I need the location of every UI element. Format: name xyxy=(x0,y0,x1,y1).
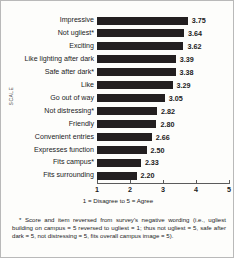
bar xyxy=(97,55,176,63)
bar-chart-plot: SCALE Impressive3.75Not ugliest*3.64Exci… xyxy=(1,1,234,197)
category-label: Like lighting after dark xyxy=(15,53,94,66)
category-label: Fits surrounding xyxy=(15,169,94,182)
bar xyxy=(97,68,176,76)
bar xyxy=(97,29,184,37)
category-label: Expresses function xyxy=(15,144,94,157)
bar-row: Expresses function2.50 xyxy=(1,144,234,157)
category-label: Convenient entries xyxy=(15,131,94,144)
bar-row: Fits surrounding2.20 xyxy=(1,169,234,182)
bar xyxy=(97,42,183,50)
bar-value-label: 2.20 xyxy=(141,169,155,182)
x-axis-caption: 1 = Disagree to 5 = Agree xyxy=(1,197,234,204)
x-axis-tick-label: 3 xyxy=(153,185,173,194)
bar xyxy=(97,17,188,25)
bar-row: Fits campus*2.33 xyxy=(1,156,234,169)
x-axis-tick-label: 1 xyxy=(87,185,107,194)
bar-row: Go out of way3.05 xyxy=(1,92,234,105)
bar-value-label: 3.75 xyxy=(192,14,206,27)
bar xyxy=(97,120,156,128)
bar xyxy=(97,94,165,102)
bar-row: Convenient entries2.66 xyxy=(1,131,234,144)
category-label: Safe after dark* xyxy=(15,66,94,79)
bar-row: Impressive3.75 xyxy=(1,14,234,27)
category-label: Friendly xyxy=(15,118,94,131)
bar-row: Exciting3.62 xyxy=(1,40,234,53)
category-label: Go out of way xyxy=(15,92,94,105)
figure-container: SCALE Impressive3.75Not ugliest*3.64Exci… xyxy=(0,0,234,258)
bar-row: Like3.29 xyxy=(1,79,234,92)
category-label: Exciting xyxy=(15,40,94,53)
x-axis-tick xyxy=(130,180,131,184)
bar xyxy=(97,133,152,141)
bar-value-label: 2.50 xyxy=(151,144,165,157)
category-label: Like xyxy=(15,79,94,92)
bar-row: Not ugliest*3.64 xyxy=(1,27,234,40)
bar-row: Safe after dark*3.38 xyxy=(1,66,234,79)
bar-value-label: 2.82 xyxy=(161,105,175,118)
bar-row: Friendly2.80 xyxy=(1,118,234,131)
bar-value-label: 2.33 xyxy=(145,156,159,169)
footnote-text: * Score and item reversed from survey's … xyxy=(12,216,226,241)
bar-value-label: 3.64 xyxy=(188,27,202,40)
bar xyxy=(97,146,147,154)
category-label: Not distressing* xyxy=(15,105,94,118)
bar-value-label: 3.38 xyxy=(180,66,194,79)
bar xyxy=(97,172,137,180)
bar xyxy=(97,159,141,167)
x-axis-tick-label: 2 xyxy=(120,185,140,194)
x-axis-tick xyxy=(229,180,230,184)
x-axis-tick-label: 4 xyxy=(186,185,206,194)
bar xyxy=(97,81,173,89)
category-label: Fits campus* xyxy=(15,156,94,169)
x-axis-tick xyxy=(163,180,164,184)
bar xyxy=(97,107,157,115)
x-axis-tick-label: 5 xyxy=(219,185,234,194)
x-axis-tick xyxy=(97,180,98,184)
bar-value-label: 3.05 xyxy=(169,92,183,105)
bar-value-label: 2.80 xyxy=(160,118,174,131)
bar-value-label: 3.39 xyxy=(180,53,194,66)
bar-row: Not distressing*2.82 xyxy=(1,105,234,118)
bar-value-label: 2.66 xyxy=(156,131,170,144)
x-axis-tick xyxy=(196,180,197,184)
category-label: Impressive xyxy=(15,14,94,27)
bar-value-label: 3.62 xyxy=(187,40,201,53)
category-label: Not ugliest* xyxy=(15,27,94,40)
bar-value-label: 3.29 xyxy=(177,79,191,92)
bar-row: Like lighting after dark3.39 xyxy=(1,53,234,66)
